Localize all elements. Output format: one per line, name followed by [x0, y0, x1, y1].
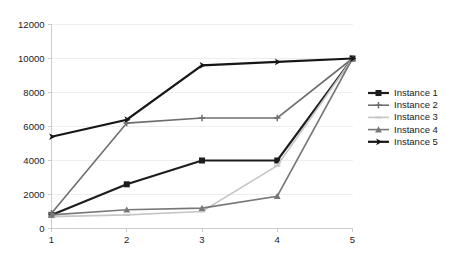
- y-axis-tick-label: 10000: [18, 53, 44, 64]
- y-axis-tick-label: 6000: [23, 121, 44, 132]
- legend-item-label: Instance 4: [394, 124, 438, 135]
- chart-canvas: 020004000600080001000012000 12345 Instan…: [0, 0, 461, 255]
- y-axis-tick-label: 12000: [18, 19, 44, 30]
- data-point-marker: [376, 90, 382, 96]
- y-axis-tick-label: 2000: [23, 189, 44, 200]
- series-line: [52, 59, 353, 217]
- y-axis-tick-label: 0: [39, 223, 44, 234]
- line-chart: 020004000600080001000012000 12345 Instan…: [0, 0, 461, 255]
- x-axis-tick-label: 1: [49, 234, 54, 245]
- legend-item-label: Instance 5: [394, 136, 438, 147]
- series-line: [52, 59, 353, 137]
- data-point-marker: [49, 133, 55, 140]
- x-axis-tick-labels: 12345: [49, 234, 355, 245]
- legend-item-label: Instance 3: [394, 111, 438, 122]
- series-line: [52, 59, 353, 214]
- x-axis-tick-label: 3: [199, 234, 204, 245]
- x-axis-tick-label: 5: [350, 234, 355, 245]
- y-axis-tick-labels: 020004000600080001000012000: [18, 19, 44, 234]
- data-point-marker: [124, 181, 130, 187]
- chart-legend: Instance 1Instance 2Instance 3Instance 4…: [368, 87, 438, 147]
- legend-item-5[interactable]: Instance 5: [368, 136, 438, 147]
- y-axis-tick-label: 4000: [23, 155, 44, 166]
- data-point-marker: [199, 158, 205, 164]
- x-axis-tick-label: 4: [275, 234, 280, 245]
- legend-item-label: Instance 2: [394, 99, 438, 110]
- legend-item-label: Instance 1: [394, 87, 438, 98]
- series-line: [52, 59, 353, 215]
- series-5: [49, 55, 356, 140]
- legend-item-4[interactable]: Instance 4: [368, 124, 438, 135]
- series-layer: [48, 55, 356, 218]
- x-axis-tick-label: 2: [124, 234, 129, 245]
- legend-item-2[interactable]: Instance 2: [368, 99, 438, 110]
- y-axis-tick-label: 8000: [23, 87, 44, 98]
- data-point-marker: [199, 115, 205, 121]
- data-point-marker: [375, 102, 381, 108]
- series-line: [52, 59, 353, 215]
- series-4: [48, 55, 356, 218]
- legend-item-1[interactable]: Instance 1: [368, 87, 438, 98]
- legend-item-3[interactable]: Instance 3: [368, 111, 438, 122]
